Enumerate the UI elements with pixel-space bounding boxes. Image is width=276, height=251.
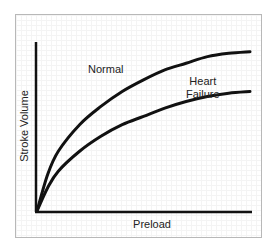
x-axis-label: Preload [133, 218, 171, 230]
plot-area [0, 0, 276, 251]
normal-label: Normal [88, 63, 123, 75]
heart-failure-label-line1: Heart [186, 75, 220, 88]
heart-failure-label-line2: Failure [186, 88, 220, 101]
heart-failure-label: Heart Failure [186, 75, 220, 101]
y-axis-label: Stroke Volume [18, 90, 30, 162]
heart-failure-curve [37, 91, 250, 211]
